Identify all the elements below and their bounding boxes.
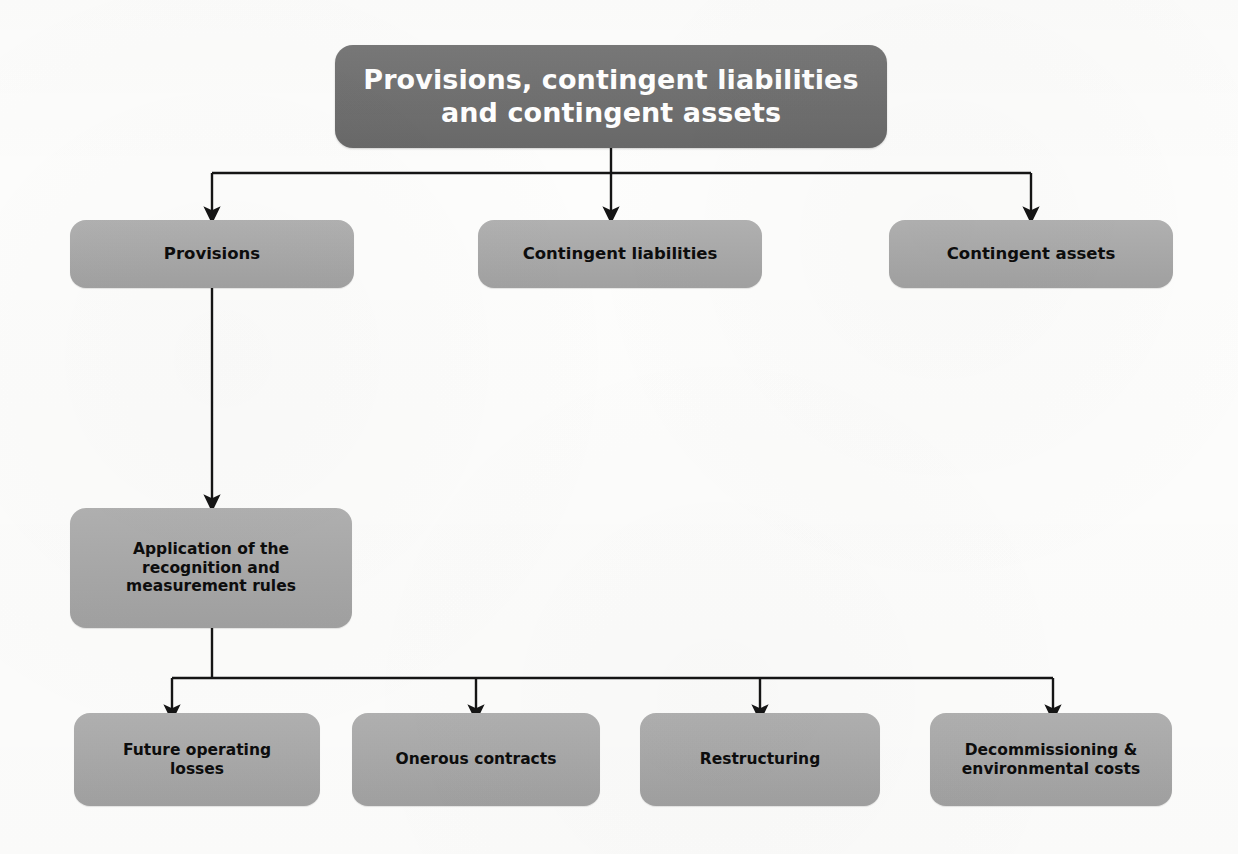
node-provisions-label: Provisions xyxy=(164,244,260,264)
node-future-operating-losses-label: Future operating losses xyxy=(123,741,271,779)
flowchart-canvas: Provisions, contingent liabilities and c… xyxy=(0,0,1238,854)
node-root[interactable]: Provisions, contingent liabilities and c… xyxy=(335,45,887,148)
node-onerous-contracts-label: Onerous contracts xyxy=(396,750,557,769)
node-contingent-liabilities-label: Contingent liabilities xyxy=(523,244,718,264)
node-contingent-assets[interactable]: Contingent assets xyxy=(889,220,1173,288)
node-root-label: Provisions, contingent liabilities and c… xyxy=(363,64,858,130)
node-onerous-contracts[interactable]: Onerous contracts xyxy=(352,713,600,806)
node-application-rules-label: Application of the recognition and measu… xyxy=(126,540,296,597)
node-decommissioning-environmental-costs[interactable]: Decommissioning & environmental costs xyxy=(930,713,1172,806)
node-future-operating-losses[interactable]: Future operating losses xyxy=(74,713,320,806)
node-restructuring[interactable]: Restructuring xyxy=(640,713,880,806)
node-contingent-assets-label: Contingent assets xyxy=(947,244,1116,264)
node-application-rules[interactable]: Application of the recognition and measu… xyxy=(70,508,352,628)
node-contingent-liabilities[interactable]: Contingent liabilities xyxy=(478,220,762,288)
node-decommissioning-environmental-costs-label: Decommissioning & environmental costs xyxy=(962,741,1140,779)
node-restructuring-label: Restructuring xyxy=(700,750,820,769)
node-provisions[interactable]: Provisions xyxy=(70,220,354,288)
